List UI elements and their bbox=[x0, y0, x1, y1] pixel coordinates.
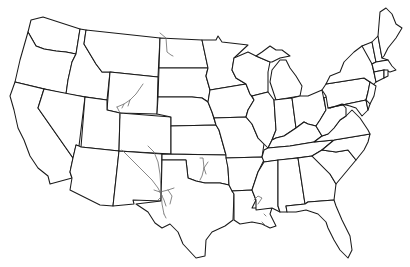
us-map-svg bbox=[0, 0, 410, 267]
state-florida bbox=[286, 200, 352, 258]
state-arizona bbox=[70, 145, 119, 206]
state-new-mexico bbox=[113, 151, 162, 206]
state-rhode-island bbox=[384, 70, 388, 78]
state-colorado bbox=[119, 113, 171, 154]
state-wyoming bbox=[107, 72, 158, 114]
state-kansas bbox=[171, 125, 226, 155]
us-map bbox=[0, 0, 410, 267]
state-maine bbox=[378, 8, 402, 58]
state-connecticut bbox=[374, 70, 384, 82]
state-michigan bbox=[270, 60, 302, 100]
state-borders bbox=[10, 8, 402, 258]
